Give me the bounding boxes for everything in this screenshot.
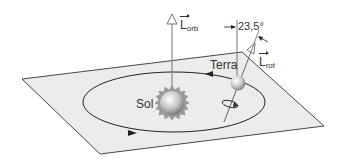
sun-icon [155, 86, 189, 120]
l-rot-symbol: L [259, 56, 266, 68]
l-rot-subscript: rot [266, 61, 275, 70]
earth-label: Terra [210, 59, 237, 71]
earth-icon [231, 76, 246, 91]
l-orb-subscript: orb [187, 24, 199, 33]
sun-label: Sol [136, 98, 153, 110]
angle-arrow-left-head [231, 25, 236, 29]
l-rot-label: Lrot [259, 53, 275, 69]
l-orb-label: Lorb [180, 16, 198, 32]
l-orb-symbol: L [180, 19, 187, 31]
earth-sun-orbit-diagram [0, 0, 338, 163]
angle-arrow-right-head [258, 36, 263, 41]
l-orb-arrowhead [167, 14, 177, 24]
tilt-angle-label: 23,5° [238, 21, 264, 32]
tilt-reference-line [251, 30, 259, 52]
